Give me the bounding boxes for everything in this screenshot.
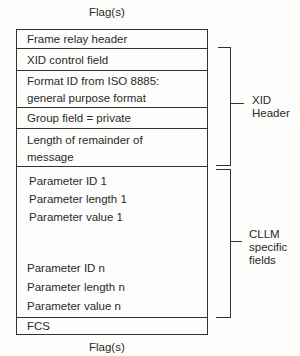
row-parameters: Parameter ID 1 Parameter length 1 Parame… bbox=[17, 167, 207, 318]
frame-box: Frame relay header XID control field For… bbox=[16, 29, 208, 335]
row-label: Length of remainder of bbox=[27, 131, 143, 149]
row-label: general purpose format bbox=[27, 89, 146, 107]
top-flag-label: Flag(s) bbox=[89, 6, 125, 18]
row-length-remainder: Length of remainder of message bbox=[17, 129, 207, 167]
cllm-fields-label: CLLM specific fields bbox=[249, 228, 287, 267]
parameter-id-n: Parameter ID n bbox=[27, 259, 105, 277]
row-frame-relay-header: Frame relay header bbox=[17, 30, 207, 49]
row-label: Frame relay header bbox=[27, 30, 127, 48]
row-label: Group field = private bbox=[27, 109, 131, 127]
xid-header-label: XID Header bbox=[252, 94, 290, 120]
row-label: Format ID from ISO 8885: bbox=[27, 72, 159, 90]
row-label: FCS bbox=[27, 317, 50, 335]
row-group-field: Group field = private bbox=[17, 108, 207, 129]
parameter-value-1: Parameter value 1 bbox=[29, 208, 123, 226]
row-fcs: FCS bbox=[17, 318, 207, 335]
row-label: XID control field bbox=[27, 51, 108, 69]
row-format-id: Format ID from ISO 8885: general purpose… bbox=[17, 71, 207, 108]
row-xid-control-field: XID control field bbox=[17, 49, 207, 71]
bottom-flag-label: Flag(s) bbox=[89, 341, 125, 353]
parameter-length-n: Parameter length n bbox=[27, 278, 125, 296]
parameter-value-n: Parameter value n bbox=[27, 297, 121, 315]
parameter-id-1: Parameter ID 1 bbox=[29, 172, 107, 190]
parameter-length-1: Parameter length 1 bbox=[29, 190, 127, 208]
row-label: message bbox=[27, 148, 74, 166]
